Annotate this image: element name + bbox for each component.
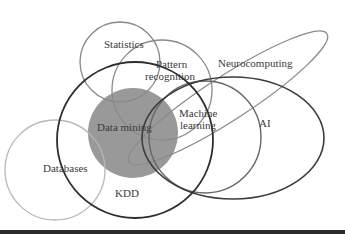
venn-diagram: Statistics Pattern recognition Neurocomp…	[0, 0, 345, 234]
ai-label: AI	[259, 117, 271, 129]
databases-label: Databases	[43, 162, 88, 174]
statistics-label: Statistics	[104, 38, 144, 50]
bottom-rule	[0, 230, 345, 234]
neurocomputing-label: Neurocomputing	[218, 57, 293, 69]
pattern-recognition-label-line2: recognition	[145, 70, 196, 82]
machine-learning-label-line2: learning	[180, 119, 217, 131]
machine-learning-label-line1: Machine	[179, 107, 218, 119]
kdd-label: KDD	[115, 187, 139, 199]
pattern-recognition-label-line1: Pattern	[156, 58, 188, 70]
data-mining-label: Data mining	[97, 121, 152, 133]
